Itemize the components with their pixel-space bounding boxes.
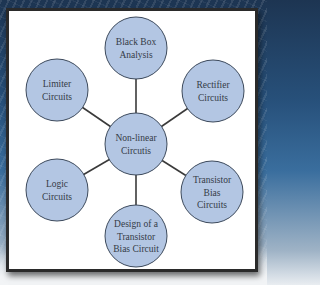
node-logic-circuits-circle <box>26 159 88 221</box>
node-limiter-circuits: LimiterCircuits <box>26 59 88 121</box>
node-limiter-circuits-label-line: Limiter <box>43 79 72 89</box>
node-logic-circuits-label-line: Circuits <box>42 192 72 202</box>
node-design-transistor-bias-circuit-label-line: Transistor <box>117 232 156 242</box>
diagram-canvas: Black BoxAnalysisRectifierCircuitsTransi… <box>0 0 267 285</box>
node-design-transistor-bias-circuit: Design of aTransistorBias Circuit <box>105 205 167 267</box>
node-center-non-linear-circuits-label-line: Circutis <box>121 146 151 156</box>
node-black-box-analysis-label-line: Black Box <box>116 37 157 47</box>
node-center-non-linear-circuits: Non-linearCircutis <box>105 113 167 175</box>
node-black-box-analysis-label-line: Analysis <box>119 50 153 60</box>
node-rectifier-circuits-label-line: Rectifier <box>196 80 230 90</box>
node-center-non-linear-circuits-circle <box>105 113 167 175</box>
node-transistor-bias-circuits-label-line: Transistor <box>193 175 232 185</box>
node-design-transistor-bias-circuit-label-line: Design of a <box>114 219 159 229</box>
node-transistor-bias-circuits: TransistorBiasCircuits <box>181 161 243 223</box>
node-transistor-bias-circuits-label-line: Bias <box>204 188 221 198</box>
node-logic-circuits-label-line: Logic <box>46 179 68 189</box>
node-black-box-analysis-circle <box>105 17 167 79</box>
node-limiter-circuits-label-line: Circuits <box>42 92 72 102</box>
node-transistor-bias-circuits-label-line: Circuits <box>197 200 227 210</box>
node-limiter-circuits-circle <box>26 59 88 121</box>
node-black-box-analysis: Black BoxAnalysis <box>105 17 167 79</box>
node-logic-circuits: LogicCircuits <box>26 159 88 221</box>
node-design-transistor-bias-circuit-label-line: Bias Circuit <box>113 244 159 254</box>
node-rectifier-circuits-label-line: Circuits <box>198 93 228 103</box>
node-rectifier-circuits-circle <box>182 60 244 122</box>
node-rectifier-circuits: RectifierCircuits <box>182 60 244 122</box>
node-center-non-linear-circuits-label-line: Non-linear <box>115 133 157 143</box>
